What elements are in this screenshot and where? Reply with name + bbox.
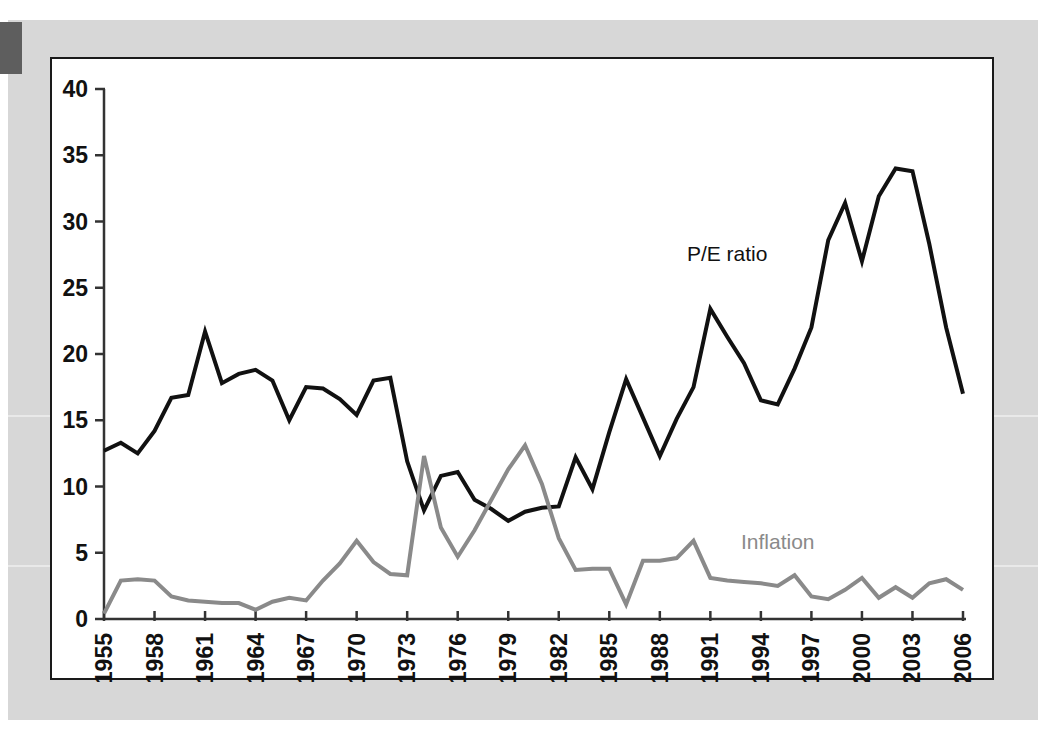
x-tick-label: 1961 [192,633,218,682]
y-tick-label: 25 [62,275,88,301]
page-tab-marker [0,22,22,74]
line-chart: 0510152025303540195519581961196419671970… [52,59,996,682]
x-tick-label: 1982 [546,633,572,682]
x-tick-label: 1955 [91,633,117,682]
y-tick-label: 15 [62,407,88,433]
axes [104,89,966,619]
x-tick-label: 1964 [243,633,269,682]
x-tick-group: 1955195819611964196719701973197619791982… [91,611,976,682]
x-tick-label: 1988 [647,633,673,682]
y-tick-label: 10 [62,474,88,500]
series-line-inflation [104,445,963,613]
page-root: 0510152025303540195519581961196419671970… [0,0,1046,739]
y-tick-label: 35 [62,142,88,168]
x-tick-label: 1970 [344,633,370,682]
y-tick-label: 40 [62,76,88,102]
y-tick-group: 0510152025303540 [62,76,105,632]
x-tick-label: 1973 [394,633,420,682]
y-tick-label: 20 [62,341,88,367]
y-tick-label: 0 [75,606,88,632]
y-tick-label: 5 [75,540,88,566]
x-tick-label: 2003 [899,633,925,682]
x-tick-label: 1985 [596,633,622,682]
y-tick-label: 30 [62,209,88,235]
x-tick-label: 1997 [798,633,824,682]
x-tick-label: 2000 [849,633,875,682]
x-tick-label: 1979 [495,633,521,682]
series-label-inflation: Inflation [741,530,815,553]
x-tick-label: 2006 [950,633,976,682]
x-tick-label: 1967 [293,633,319,682]
series-label-p-e-ratio: P/E ratio [687,242,768,265]
x-tick-label: 1991 [697,633,723,682]
x-tick-label: 1958 [142,633,168,682]
x-tick-label: 1976 [445,633,471,682]
x-tick-label: 1994 [748,633,774,682]
chart-card: 0510152025303540195519581961196419671970… [50,57,994,680]
